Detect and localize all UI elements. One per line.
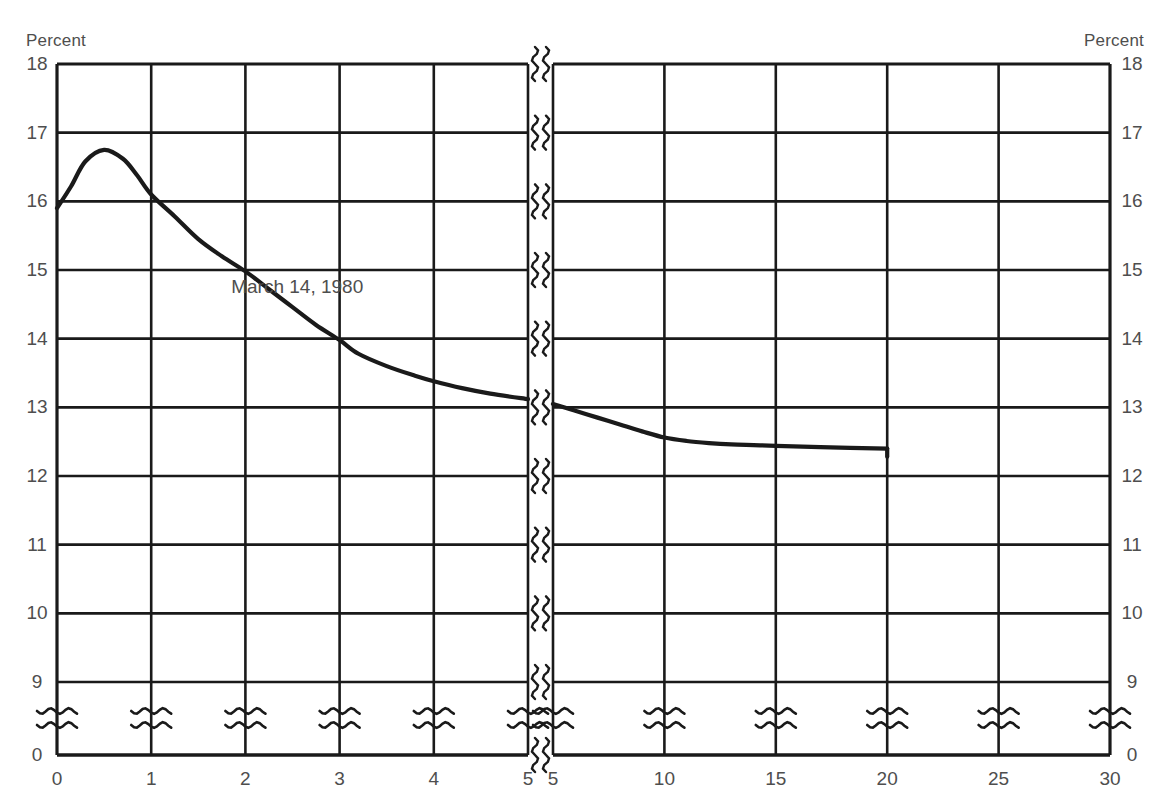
x-tick-days-3: 3: [334, 768, 345, 790]
y-tick-left-18: 18: [26, 53, 47, 75]
gridlines: [57, 64, 1110, 755]
x-tick-years-10: 10: [654, 768, 675, 790]
data-series-layer: [57, 150, 887, 457]
y-tick-right-17: 17: [1121, 122, 1142, 144]
y-tick-right-9: 9: [1127, 671, 1138, 693]
y-tick-left-0: 0: [32, 744, 43, 766]
y-tick-right-14: 14: [1121, 328, 1142, 350]
x-tick-years-25: 25: [988, 768, 1009, 790]
x-tick-days-5: 5: [523, 768, 534, 790]
y-tick-right-13: 13: [1121, 396, 1142, 418]
x-tick-years-30: 30: [1099, 768, 1120, 790]
axis-break-marks: [37, 47, 1130, 772]
y-tick-right-12: 12: [1121, 465, 1142, 487]
x-tick-days-0: 0: [52, 768, 63, 790]
y-tick-left-12: 12: [26, 465, 47, 487]
chart-annotation-0: March 14, 1980: [231, 276, 363, 298]
y-tick-right-16: 16: [1121, 190, 1142, 212]
y-tick-right-0: 0: [1127, 744, 1138, 766]
y-tick-left-10: 10: [26, 602, 47, 624]
x-tick-years-20: 20: [877, 768, 898, 790]
y-tick-right-15: 15: [1121, 259, 1142, 281]
y-tick-left-16: 16: [26, 190, 47, 212]
x-tick-years-5: 5: [548, 768, 559, 790]
x-tick-days-2: 2: [240, 768, 251, 790]
x-tick-days-1: 1: [146, 768, 157, 790]
y-tick-left-13: 13: [26, 396, 47, 418]
y-tick-right-11: 11: [1122, 534, 1142, 556]
y-tick-left-17: 17: [26, 122, 47, 144]
y-tick-left-14: 14: [26, 328, 47, 350]
y-tick-left-9: 9: [32, 671, 43, 693]
plot-area: [0, 0, 1166, 804]
y-tick-left-15: 15: [26, 259, 47, 281]
x-tick-years-15: 15: [765, 768, 786, 790]
x-tick-days-4: 4: [429, 768, 440, 790]
y-tick-right-18: 18: [1121, 53, 1142, 75]
y-tick-left-11: 11: [27, 534, 47, 556]
chart-root: Percent Percent 009910101111121213131414…: [0, 0, 1166, 804]
y-tick-right-10: 10: [1121, 602, 1142, 624]
